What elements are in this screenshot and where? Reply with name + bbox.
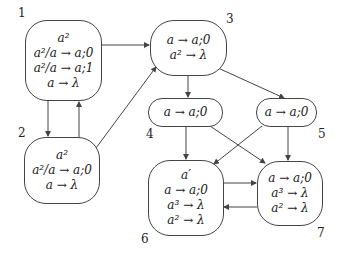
- node-2-line: a²/a → a;0: [32, 163, 92, 178]
- node-4: a → a;0: [148, 98, 223, 127]
- node-6-line: a → a;0: [164, 183, 208, 198]
- node-7-line: a² → λ: [271, 201, 308, 216]
- node-5-line: a → a;0: [265, 105, 309, 120]
- node-6-label: 6: [141, 232, 149, 246]
- node-3: a → a;0 a² → λ: [150, 20, 227, 76]
- node-2-line: a → λ: [46, 178, 78, 193]
- node-6-line: a′: [181, 168, 191, 183]
- node-2-line: a²: [56, 148, 68, 163]
- node-7-line: a³ → λ: [271, 186, 308, 201]
- node-1: a² a²/a → a;0 a²/a → a;1 a → λ: [25, 20, 102, 101]
- node-3-line: a² → λ: [170, 48, 207, 63]
- node-1-line: a²: [58, 31, 70, 46]
- membrane-diagram: a² a²/a → a;0 a²/a → a;1 a → λ 1 a² a²/a…: [0, 0, 342, 253]
- node-1-label: 1: [18, 6, 26, 20]
- node-1-line: a²/a → a;1: [34, 61, 94, 76]
- node-7-line: a → a;0: [268, 171, 312, 186]
- node-6: a′ a → a;0 a³ → λ a² → λ: [148, 160, 224, 236]
- node-3-label: 3: [226, 12, 234, 26]
- node-7-label: 7: [317, 226, 325, 240]
- node-6-line: a³ → λ: [167, 198, 204, 213]
- node-1-line: a → λ: [47, 76, 79, 91]
- edge-5-6: [214, 126, 262, 164]
- node-1-line: a²/a → a;0: [34, 46, 94, 61]
- node-4-line: a → a;0: [164, 105, 208, 120]
- node-2-label: 2: [18, 126, 26, 140]
- node-6-line: a² → λ: [167, 213, 204, 228]
- node-5: a → a;0: [256, 98, 317, 127]
- node-7: a → a;0 a³ → λ a² → λ: [257, 161, 323, 226]
- node-5-label: 5: [318, 127, 326, 141]
- edge-4-7: [210, 126, 265, 163]
- node-4-label: 4: [146, 127, 154, 141]
- node-3-line: a → a;0: [167, 33, 211, 48]
- node-2: a² a²/a → a;0 a → λ: [24, 137, 100, 204]
- edge-3-5: [218, 68, 284, 98]
